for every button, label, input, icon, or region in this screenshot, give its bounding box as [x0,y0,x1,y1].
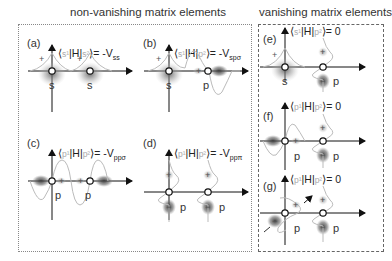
orbital-label: p [294,222,300,234]
atom-site [320,210,326,216]
atom-site [49,68,55,74]
atom-site [282,64,288,70]
orbital-label: p [85,189,91,201]
minus-sign: − [320,222,325,232]
orientation-arrow [304,196,312,203]
orbital-label: s [166,79,172,91]
plus-sign: + [166,170,171,180]
plus-sign: + [293,200,298,210]
orientation-tick [264,227,270,232]
panel-c-diagram: − + + − p p [28,150,132,220]
atom-site [49,178,55,184]
minus-sign: − [101,176,106,186]
minus-sign: − [216,66,221,76]
orbital-label: p [55,189,61,201]
plus-sign: + [320,47,325,57]
plus-sign: + [59,176,64,186]
plus-sign: + [320,123,325,133]
atom-site [320,64,326,70]
panel-b-diagram: + + − s p [144,45,248,112]
panel-e-diagram: + + − s p [260,28,365,92]
minus-sign: − [205,202,210,212]
minus-sign: − [320,150,325,160]
plus-sign: + [293,136,298,146]
orbital-label: p [203,79,209,91]
panel-a-diagram: + + s s [28,45,132,112]
plus-sign: + [78,176,83,186]
plus-sign: + [320,195,325,205]
orbital-label: p [333,75,339,87]
orbital-label: s [49,79,55,91]
plus-sign: + [205,170,210,180]
minus-sign: − [270,136,275,146]
atom-site [282,210,288,216]
atom-site [87,178,93,184]
panel-f-diagram: − + + − p p [260,103,365,170]
orbital-label: p [180,201,186,213]
plus-sign: + [39,54,44,64]
plus-sign: + [156,54,161,64]
minus-sign: − [166,202,171,212]
atom-site [166,189,172,195]
minus-sign: − [38,176,43,186]
atom-site [87,68,93,74]
orbital-label: p [333,150,339,162]
orbital-label: s [282,75,288,87]
plus-sign: + [196,66,201,76]
orbital-label: p [294,150,300,162]
atom-site [166,68,172,74]
orbital-label: p [219,201,225,213]
plus-sign: + [272,50,277,60]
orbital-label: s [87,79,93,91]
minus-sign: − [272,216,277,226]
atom-site [282,138,288,144]
panel-d-diagram: + + − − p p [144,150,248,222]
minus-sign: − [320,76,325,86]
plus-sign: + [77,54,82,64]
orbital-label: p [333,222,339,234]
panel-g-diagram: − + + − p p [260,176,365,245]
atom-site [205,68,211,74]
atom-site [320,138,326,144]
atom-site [205,189,211,195]
